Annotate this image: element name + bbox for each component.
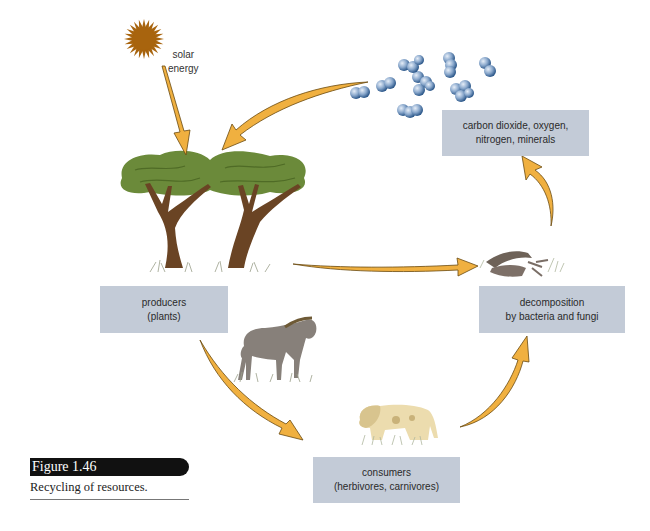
consumers-line2: (herbivores, carnivores): [334, 480, 439, 494]
producers-line2: (plants): [147, 310, 180, 324]
figure-caption: Recycling of resources.: [30, 478, 189, 500]
lion-illustration: [359, 405, 438, 445]
consumers-box: consumers (herbivores, carnivores): [313, 457, 460, 503]
arrow-solar-to-producers: [162, 66, 190, 155]
atmosphere-line2: nitrogen, minerals: [476, 133, 555, 147]
figure-number: Figure 1.46: [30, 458, 189, 476]
arrow-producers-to-decomposition: [293, 258, 478, 276]
atmosphere-box: carbon dioxide, oxygen, nitrogen, minera…: [442, 110, 589, 156]
producers-line1: producers: [142, 296, 186, 310]
sun-icon: [116, 11, 173, 68]
solar-label-line2: energy: [168, 62, 199, 76]
decomposition-line1: decomposition: [520, 296, 584, 310]
producers-box: producers (plants): [100, 286, 228, 333]
solar-label-line1: solar: [168, 48, 199, 62]
decomposition-box: decomposition by bacteria and fungi: [479, 286, 625, 333]
consumers-line1: consumers: [362, 466, 411, 480]
arrow-decomposition-to-atmosphere: [522, 156, 553, 226]
molecules-icon: [350, 52, 496, 118]
cycle-diagram: [0, 0, 650, 531]
arrow-consumers-to-decomposition: [460, 336, 529, 427]
decomposition-line2: by bacteria and fungi: [506, 310, 599, 324]
arrow-atmosphere-to-producers: [222, 82, 368, 150]
atmosphere-line1: carbon dioxide, oxygen,: [463, 119, 569, 133]
wildebeest-illustration: [234, 318, 316, 382]
solar-energy-label: solar energy: [168, 48, 199, 76]
trees-illustration: [121, 151, 306, 272]
carcass-illustration: [480, 251, 564, 276]
